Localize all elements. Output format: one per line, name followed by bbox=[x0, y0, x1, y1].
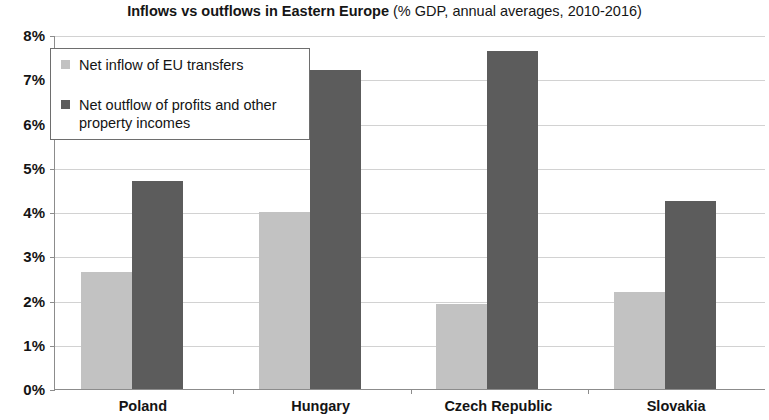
category-separator-tick bbox=[588, 389, 589, 394]
y-axis-tick-label: 4% bbox=[0, 205, 45, 221]
y-axis-tick bbox=[50, 169, 55, 170]
category-separator-tick bbox=[233, 389, 234, 394]
x-axis-category-label: Slovakia bbox=[587, 398, 765, 415]
legend-item: Net inflow of EU transfers bbox=[59, 56, 301, 74]
y-axis-tick bbox=[50, 302, 55, 303]
y-axis-tick-label: 7% bbox=[0, 72, 45, 88]
x-axis-category-label: Czech Republic bbox=[410, 398, 588, 415]
x-axis-category-label: Poland bbox=[54, 398, 232, 415]
y-axis-tick-label: 3% bbox=[0, 249, 45, 265]
bar bbox=[665, 201, 716, 389]
legend-swatch-icon bbox=[61, 100, 70, 109]
y-axis-tick-label: 8% bbox=[0, 28, 45, 44]
legend-swatch-icon bbox=[61, 60, 70, 69]
legend-item-label: Net outflow of profits and other propert… bbox=[79, 96, 301, 132]
bar bbox=[487, 51, 538, 390]
bar bbox=[310, 70, 361, 389]
y-axis-tick bbox=[50, 213, 55, 214]
y-axis-tick-label: 6% bbox=[0, 117, 45, 133]
bar-chart: Inflows vs outflows in Eastern Europe (%… bbox=[0, 0, 769, 420]
bar bbox=[436, 304, 487, 389]
bar bbox=[81, 272, 132, 389]
bar bbox=[614, 292, 665, 389]
y-axis-tick bbox=[50, 346, 55, 347]
legend-item: Net outflow of profits and other propert… bbox=[59, 96, 301, 132]
chart-title-main: Inflows vs outflows in Eastern Europe bbox=[127, 3, 389, 19]
y-axis-tick bbox=[50, 36, 55, 37]
category-separator-tick bbox=[411, 389, 412, 394]
y-axis-tick-label: 1% bbox=[0, 338, 45, 354]
chart-legend: Net inflow of EU transfersNet outflow of… bbox=[50, 48, 310, 140]
gridline bbox=[55, 36, 765, 37]
bar bbox=[132, 181, 183, 389]
chart-title-subtitle: (% GDP, annual averages, 2010-2016) bbox=[389, 3, 642, 19]
x-axis-category-label: Hungary bbox=[232, 398, 410, 415]
legend-item-label: Net inflow of EU transfers bbox=[79, 56, 301, 74]
bar bbox=[259, 212, 310, 389]
y-axis-tick-label: 5% bbox=[0, 161, 45, 177]
gridline bbox=[55, 169, 765, 170]
chart-title: Inflows vs outflows in Eastern Europe (%… bbox=[0, 2, 769, 20]
y-axis-tick-label: 2% bbox=[0, 294, 45, 310]
y-axis-tick bbox=[50, 257, 55, 258]
y-axis-tick bbox=[50, 390, 55, 391]
y-axis-tick-label: 0% bbox=[0, 382, 45, 398]
